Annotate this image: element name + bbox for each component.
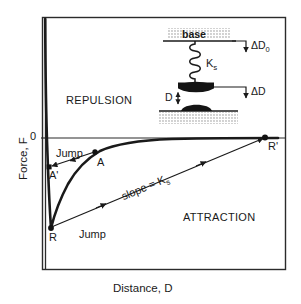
point-a-prime-label: A'	[49, 170, 58, 181]
inset-gap-label: D	[165, 92, 173, 103]
inset-delta-d0-subscript: 0	[266, 45, 270, 54]
inset-spring-coil	[190, 41, 201, 82]
point-r-label: R	[49, 232, 57, 243]
spring-line-arrow-upper	[196, 162, 206, 166]
zero-tick-label: 0	[30, 131, 36, 142]
inset-delta-d0-text: ΔD	[251, 39, 266, 51]
inset-delta-d-label: ΔD	[251, 86, 266, 97]
repulsion-region-label: REPULSION	[66, 95, 132, 106]
inset-spring-constant-label: Ks	[206, 58, 217, 72]
jump-out-label: Jump	[56, 148, 83, 159]
inset-delta-d0-label: ΔD0	[251, 40, 270, 54]
point-r-prime-label: R'	[268, 141, 278, 152]
inset-tip-block-body	[178, 83, 214, 89]
attraction-region-label: ATTRACTION	[183, 212, 255, 223]
inset-schematic	[159, 28, 246, 124]
inset-sample-bump	[181, 105, 212, 111]
spring-line-arrow-lower	[96, 204, 106, 208]
inset-substrate	[159, 112, 238, 124]
inset-delta-d0-leader	[232, 41, 246, 52]
marker-point-a	[92, 149, 97, 154]
jump-in-label: Jump	[79, 229, 106, 240]
inset-spring-constant-subscript: s	[213, 63, 217, 72]
point-a-label: A	[97, 157, 104, 168]
inset-base-label: base	[182, 29, 206, 40]
inset-delta-d-leader	[214, 87, 246, 98]
y-axis-label: Force, F	[18, 137, 30, 180]
x-axis-label: Distance, D	[113, 283, 172, 295]
force-distance-figure: Force, F 0 Distance, D REPULSION ATTRACT…	[0, 0, 301, 304]
